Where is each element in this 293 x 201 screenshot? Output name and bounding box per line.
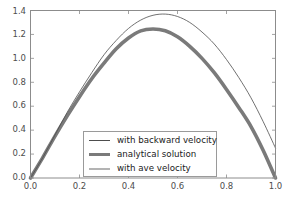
- legend-entry-2: with ave velocity: [84, 161, 216, 176]
- xtick-label-4: 0.8: [214, 182, 239, 191]
- ytick-label-3: 0.6: [2, 101, 26, 110]
- chart-legend: with backward velocity analytical soluti…: [83, 131, 217, 177]
- ytick-label-0: 0.0: [2, 173, 26, 182]
- ytick-label-2: 0.4: [2, 125, 26, 134]
- ytick-label-7: 1.4: [2, 7, 26, 16]
- legend-label-2: with ave velocity: [117, 164, 191, 173]
- legend-entry-1: analytical solution: [84, 147, 216, 162]
- ytick-label-4: 0.8: [2, 78, 26, 87]
- ytick-label-1: 0.2: [2, 149, 26, 158]
- legend-line-sample-icon-0: [89, 135, 110, 147]
- legend-line-sample-icon-2: [89, 163, 110, 175]
- legend-label-0: with backward velocity: [117, 136, 217, 145]
- xtick-label-5: 1.0: [263, 182, 288, 191]
- xtick-label-1: 0.2: [67, 182, 92, 191]
- ytick-label-6: 1.2: [2, 30, 26, 39]
- ytick-label-5: 1.0: [2, 54, 26, 63]
- figure-canvas: 0.0 0.2 0.4 0.6 0.8 1.0 1.2 1.4 0.0 0.2 …: [0, 0, 293, 201]
- legend-entry-0: with backward velocity: [84, 133, 216, 148]
- xtick-label-2: 0.4: [116, 182, 141, 191]
- xtick-label-0: 0.0: [18, 182, 43, 191]
- legend-line-sample-icon-1: [89, 149, 110, 161]
- legend-label-1: analytical solution: [117, 150, 196, 159]
- xtick-label-3: 0.6: [165, 182, 190, 191]
